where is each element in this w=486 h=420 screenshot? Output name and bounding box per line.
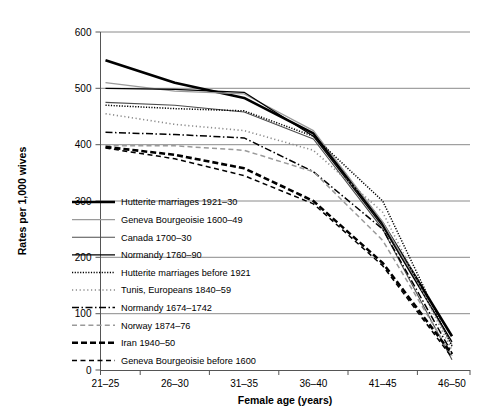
x-tick-label: 41–45 xyxy=(369,378,397,389)
line-chart: 0100200300400500600 21–2526–3031–3536–40… xyxy=(0,0,486,420)
y-tick-label: 100 xyxy=(75,308,92,319)
legend-label: Hutterite marriages 1921–30 xyxy=(121,197,237,207)
x-tick-label: 21–25 xyxy=(92,378,120,389)
legend-label: Norway 1874–76 xyxy=(121,321,190,331)
y-tick-label: 600 xyxy=(75,27,92,38)
legend-label: Normandy 1760–90 xyxy=(121,250,202,260)
x-tick-label: 31–35 xyxy=(230,378,258,389)
legend-label: Canada 1700–30 xyxy=(121,233,192,243)
y-tick-label: 500 xyxy=(75,83,92,94)
legend-label: Hutterite marriages before 1921 xyxy=(121,268,251,278)
y-tick-label: 200 xyxy=(75,252,92,263)
x-tick-label: 26–30 xyxy=(161,378,189,389)
x-tick-label: 46–50 xyxy=(438,378,466,389)
legend-label: Geneva Bourgeoisie before 1600 xyxy=(121,356,256,366)
y-axis-title: Rates per 1,000 wives xyxy=(16,147,28,256)
x-tick-label: 36–40 xyxy=(299,378,327,389)
y-tick-label: 400 xyxy=(75,139,92,150)
legend-label: Iran 1940–50 xyxy=(121,338,175,348)
x-axis-title: Female age (years) xyxy=(238,394,333,406)
legend-label: Normandy 1674–1742 xyxy=(121,303,212,313)
chart-container: 0100200300400500600 21–2526–3031–3536–40… xyxy=(0,0,486,420)
y-tick-label: 0 xyxy=(86,365,92,376)
legend-label: Geneva Bourgeoisie 1600–49 xyxy=(121,215,243,225)
legend-label: Tunis, Europeans 1840–59 xyxy=(121,285,231,295)
